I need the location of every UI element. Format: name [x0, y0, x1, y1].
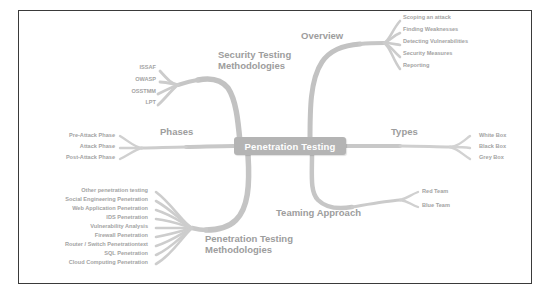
leaf-overview-3[interactable]: Security Measures — [403, 50, 452, 57]
leaf-penetration-testing-methodologies-8[interactable]: Cloud Computing Penetration — [69, 259, 148, 266]
leaf-security-testing-methodologies-0[interactable]: ISSAF — [140, 64, 156, 71]
leaf-security-testing-methodologies-2[interactable]: OSSTMM — [131, 88, 156, 95]
branch-label-overview[interactable]: Overview — [301, 30, 343, 41]
branch-label-penetration-testing-methodologies[interactable]: Penetration TestingMethodologies — [205, 233, 293, 255]
leaf-penetration-testing-methodologies-6[interactable]: Router / Switch Penetrationtext — [65, 241, 148, 248]
leaf-penetration-testing-methodologies-4[interactable]: Vulnerability Analysis — [90, 223, 148, 230]
leaf-overview-2[interactable]: Detecting Vulnerabilities — [403, 38, 468, 45]
central-node[interactable]: Penetration Testing — [234, 137, 346, 155]
leaf-overview-1[interactable]: Finding Weaknesses — [403, 26, 458, 33]
leaf-overview-0[interactable]: Scoping an attack — [403, 14, 451, 21]
leaf-phases-1[interactable]: Attack Phase — [80, 143, 115, 150]
leaf-types-1[interactable]: Black Box — [479, 143, 506, 150]
branch-label-types[interactable]: Types — [391, 126, 418, 137]
leaf-penetration-testing-methodologies-1[interactable]: Social Engineering Penetration — [65, 196, 148, 203]
branch-teaming-approach — [312, 155, 418, 208]
leaf-phases-0[interactable]: Pre-Attack Phase — [69, 132, 115, 139]
branch-label-security-testing-methodologies[interactable]: Security TestingMethodologies — [218, 49, 291, 71]
central-node-label: Penetration Testing — [245, 141, 336, 152]
leaf-penetration-testing-methodologies-5[interactable]: Firewall Penetration — [95, 232, 148, 239]
branch-types — [346, 136, 470, 159]
leaf-penetration-testing-methodologies-3[interactable]: IDS Penetration — [106, 214, 148, 221]
leaf-penetration-testing-methodologies-7[interactable]: SQL Penetration — [104, 250, 148, 257]
leaf-overview-4[interactable]: Reporting — [403, 62, 429, 69]
mindmap-diagram: Penetration Testing Overview Security Te… — [0, 0, 552, 306]
leaf-penetration-testing-methodologies-2[interactable]: Web Application Penetration — [72, 205, 148, 212]
leaf-penetration-testing-methodologies-0[interactable]: Other penetration testing — [81, 187, 148, 194]
leaf-phases-2[interactable]: Post-Attack Phase — [66, 154, 115, 161]
leaf-security-testing-methodologies-3[interactable]: LPT — [145, 99, 156, 106]
branch-label-phases[interactable]: Phases — [160, 126, 193, 137]
branch-phases — [120, 136, 234, 159]
leaf-teaming-approach-0[interactable]: Red Team — [422, 188, 448, 195]
leaf-teaming-approach-1[interactable]: Blue Team — [422, 202, 450, 209]
leaf-types-0[interactable]: White Box — [479, 132, 506, 139]
branch-label-teaming-approach[interactable]: Teaming Approach — [276, 207, 361, 218]
leaf-security-testing-methodologies-1[interactable]: OWASP — [135, 76, 156, 83]
leaf-types-2[interactable]: Grey Box — [479, 154, 504, 161]
